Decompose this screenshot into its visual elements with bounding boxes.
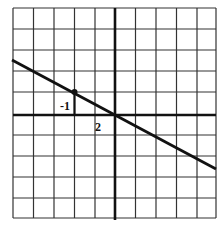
run-label: 2 xyxy=(95,120,101,134)
rise-label: -1 xyxy=(60,99,70,113)
plotted-point xyxy=(72,89,78,95)
coordinate-graph: -1 2 xyxy=(0,0,224,228)
